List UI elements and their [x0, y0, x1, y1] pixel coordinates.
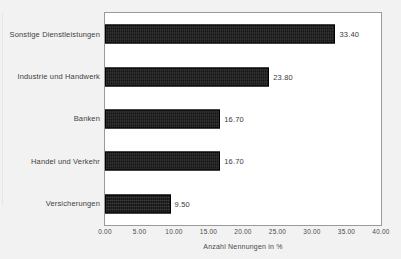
bar[interactable] [105, 194, 171, 213]
category-label: Industrie und Handwerk [4, 55, 104, 97]
plot-area: 33.4023.8016.7016.709.50 [105, 13, 381, 225]
bar-row: 23.80 [105, 55, 381, 97]
x-axis-title: Anzahl Nennungen in % [105, 243, 381, 250]
bar[interactable] [105, 25, 335, 44]
x-tick-label: 25.00 [269, 228, 286, 235]
bar-value-label: 33.40 [339, 30, 359, 39]
bar[interactable] [105, 152, 220, 171]
bar-row: 33.40 [105, 13, 381, 55]
x-tick-label: 30.00 [303, 228, 320, 235]
bar-row: 9.50 [105, 183, 381, 225]
bar-value-label: 16.70 [224, 114, 244, 123]
bar-value-label: 9.50 [175, 199, 190, 208]
x-tick-label: 20.00 [234, 228, 251, 235]
category-label: Banken [4, 98, 104, 140]
bar[interactable] [105, 67, 269, 86]
category-label: Handel und Verkehr [4, 140, 104, 182]
category-label: Versicherungen [4, 183, 104, 225]
x-tick-label: 15.00 [200, 228, 217, 235]
x-tick-label: 35.00 [338, 228, 355, 235]
x-tick-label: 40.00 [372, 228, 389, 235]
x-tick-label: 10.00 [165, 228, 182, 235]
bar-row: 16.70 [105, 98, 381, 140]
bar-chart-figure: Sonstige DienstleistungenIndustrie und H… [0, 0, 401, 259]
category-axis-labels: Sonstige DienstleistungenIndustrie und H… [0, 13, 104, 225]
bar-row: 16.70 [105, 140, 381, 182]
bar-value-label: 23.80 [273, 72, 293, 81]
clipped-title-fragment [10, 0, 130, 5]
x-axis-tick-labels: 0.005.0010.0015.0020.0025.0030.0035.0040… [105, 228, 381, 238]
bar[interactable] [105, 109, 220, 128]
x-tick-label: 0.00 [98, 228, 111, 235]
category-label: Sonstige Dienstleistungen [4, 13, 104, 55]
bar-value-label: 16.70 [224, 157, 244, 166]
x-tick-label: 5.00 [133, 228, 146, 235]
